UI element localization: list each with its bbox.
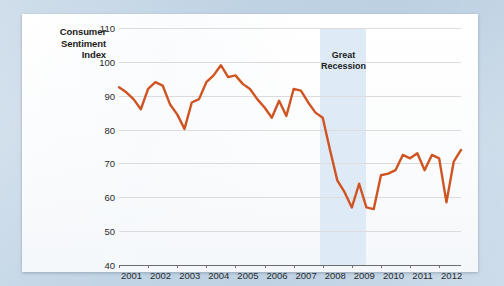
great-recession-label-line-1: Great: [321, 50, 366, 61]
x-tick-label-2006: 2006: [266, 270, 287, 281]
x-tick-label-2001: 2001: [121, 270, 142, 281]
x-tick-mark-2007: [294, 265, 295, 268]
x-tick-label-2010: 2010: [383, 270, 404, 281]
y-tick-label-60: 60: [104, 192, 115, 203]
x-tick-mark-2008: [323, 265, 324, 268]
x-tick-label-2009: 2009: [354, 270, 375, 281]
y-tick-label-70: 70: [104, 158, 115, 169]
x-tick-mark-2004: [206, 265, 207, 268]
great-recession-label-line-2: Recession: [321, 61, 366, 72]
x-tick-mark-2001: [119, 265, 120, 268]
series-polyline: [119, 65, 461, 209]
y-tick-label-40: 40: [104, 260, 115, 271]
great-recession-label: Great Recession: [321, 50, 366, 72]
x-tick-mark-2012: [439, 265, 440, 268]
series-line-consumer-sentiment-index: [119, 28, 461, 265]
x-tick-mark-2009: [352, 265, 353, 268]
x-tick-label-2011: 2011: [412, 270, 432, 281]
y-axis-title-line-1: Consumer: [34, 26, 106, 38]
x-tick-label-2012: 2012: [441, 270, 462, 281]
x-tick-mark-2006: [265, 265, 266, 268]
x-tick-label-2007: 2007: [296, 270, 317, 281]
x-tick-mark-2002: [148, 265, 149, 268]
y-tick-label-110: 110: [100, 23, 115, 34]
x-tick-mark-2003: [177, 265, 178, 268]
y-tick-label-100: 100: [99, 56, 115, 67]
x-tick-label-2003: 2003: [179, 270, 200, 281]
x-tick-mark-2005: [235, 265, 236, 268]
x-tick-label-2004: 2004: [208, 270, 229, 281]
plot-area: 405060708090100110 200120022003200420052…: [119, 28, 461, 265]
x-tick-label-2002: 2002: [150, 270, 171, 281]
y-tick-label-90: 90: [104, 90, 115, 101]
chart-card: Consumer Sentiment Index 405060708090100…: [22, 14, 478, 272]
y-tick-label-50: 50: [104, 226, 115, 237]
y-axis-title-line-3: Index: [34, 49, 106, 61]
y-axis-title: Consumer Sentiment Index: [34, 26, 106, 61]
x-tick-mark-2011: [410, 265, 411, 268]
y-axis-title-line-2: Sentiment: [34, 38, 106, 50]
x-tick-label-2005: 2005: [237, 270, 258, 281]
y-tick-label-80: 80: [104, 124, 115, 135]
x-tick-mark-2010: [381, 265, 382, 268]
x-tick-label-2008: 2008: [325, 270, 346, 281]
